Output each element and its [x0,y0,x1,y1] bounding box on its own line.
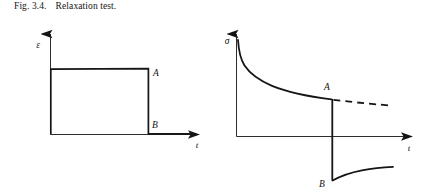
right-chart-label-a: A [323,82,330,92]
left-chart-y-axis-label: ε [36,40,40,50]
right-chart-label-b: B [319,179,325,189]
right-chart-x-axis-label: t [408,143,411,153]
left-chart-label-b: B [152,120,158,130]
right-chart-y-axis-label: σ [225,36,230,46]
right-chart-stress: σ t A B [225,34,411,189]
right-chart-relaxation-curve [238,40,332,99]
left-chart-x-axis-label: t [196,140,199,150]
right-chart-recovery-curve [333,167,393,181]
right-chart-relaxation-dashed [334,100,393,106]
left-chart-strain-curve [51,69,196,135]
left-chart-strain: ε t A B [36,34,199,150]
left-chart-label-a: A [152,68,159,78]
relaxation-test-figure: ε t A B σ t A [0,0,433,192]
figure-page: Fig. 3.4.Relaxation test. ε [0,0,433,192]
